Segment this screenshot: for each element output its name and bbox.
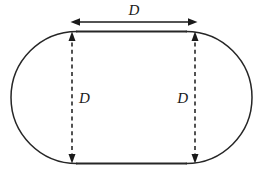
top-width-arrowhead-left bbox=[71, 18, 81, 26]
stadium-left-cap bbox=[11, 32, 77, 164]
dimension-right-height bbox=[192, 32, 199, 164]
dimension-label-left-height: D bbox=[78, 90, 90, 106]
top-width-arrowhead-right bbox=[188, 18, 198, 26]
left-height-arrowhead-top bbox=[69, 32, 76, 42]
stadium-right-cap bbox=[186, 32, 252, 164]
stadium-outline bbox=[11, 32, 252, 164]
dimension-left-height bbox=[69, 32, 76, 164]
left-height-arrowhead-bottom bbox=[69, 154, 76, 164]
dimension-label-right-height: D bbox=[176, 90, 188, 106]
diagram-canvas: D D D bbox=[0, 0, 273, 174]
dimension-top-width bbox=[71, 18, 198, 26]
stadium-diagram-svg: D D D bbox=[0, 0, 273, 174]
dimension-label-top-width: D bbox=[128, 2, 140, 18]
